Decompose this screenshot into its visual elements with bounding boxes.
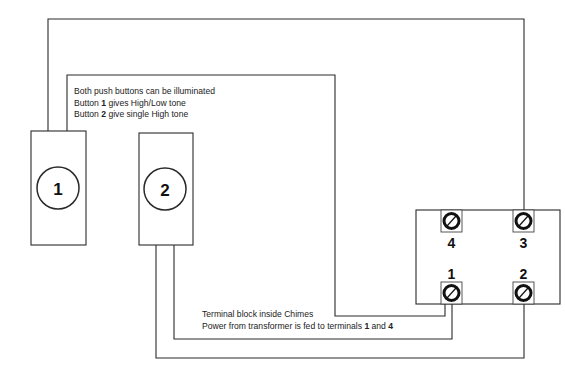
- terminal-3-label: 3: [520, 235, 528, 251]
- push-button-2-label: 2: [160, 181, 169, 200]
- terminal-1: [441, 282, 462, 304]
- terminal-4: [441, 210, 462, 232]
- terminal-2: [513, 282, 534, 304]
- note-button-2: Button 2 give single High tone: [74, 109, 215, 121]
- push-button-1-label: 1: [53, 180, 62, 199]
- note-power-feed: Power from transformer is fed to termina…: [202, 321, 393, 333]
- note-illuminated: Both push buttons can be illuminated: [74, 86, 215, 98]
- button-notes: Both push buttons can be illuminated But…: [74, 86, 215, 121]
- note-terminal-block: Terminal block inside Chimes: [202, 309, 393, 321]
- terminal-block: [416, 210, 560, 304]
- terminal-notes: Terminal block inside Chimes Power from …: [202, 309, 393, 332]
- terminal-4-label: 4: [448, 235, 456, 251]
- note-button-1: Button 1 gives High/Low tone: [74, 98, 215, 110]
- terminal-2-label: 2: [520, 266, 528, 282]
- terminal-1-label: 1: [448, 266, 456, 282]
- wire-button2-to-terminal2: [156, 245, 524, 358]
- terminal-3: [513, 210, 534, 232]
